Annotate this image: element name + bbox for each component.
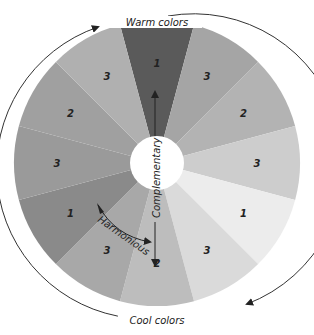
segment-label: 3 (204, 71, 211, 82)
segment-label: 3 (204, 245, 211, 256)
segment-label: 2 (67, 108, 74, 119)
segment-label: 3 (54, 158, 61, 169)
segment-label: 3 (104, 245, 111, 256)
color-wheel-diagram: 132313231323 Complementary Harmonious Wa… (0, 0, 314, 335)
segment-label: 1 (154, 58, 161, 69)
segment-label: 1 (240, 208, 247, 219)
segment-label: 2 (240, 108, 247, 119)
segment-label: 3 (254, 158, 261, 169)
cool-colors-label: Cool colors (129, 315, 184, 326)
segment-label: 1 (67, 208, 74, 219)
segment-label: 3 (104, 71, 111, 82)
warm-colors-label: Warm colors (126, 17, 188, 28)
complementary-label: Complementary (151, 136, 162, 218)
